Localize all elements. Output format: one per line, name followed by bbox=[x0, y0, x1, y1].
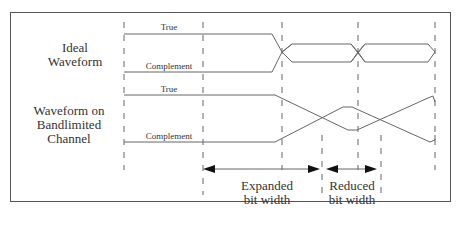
ideal-true-label: True bbox=[144, 22, 194, 32]
reduced-line2: bit width bbox=[322, 193, 382, 207]
expanded-bit-width-label: Expanded bit width bbox=[232, 179, 302, 207]
reduced-bit-width-label: Reduced bit width bbox=[322, 179, 382, 207]
ideal-label-line1: Ideal bbox=[40, 41, 110, 55]
bandlimited-complement-label: Complement bbox=[136, 131, 202, 141]
ideal-complement-label: Complement bbox=[136, 61, 202, 71]
row-label-bandlimited: Waveform on Bandlimited Channel bbox=[14, 104, 124, 146]
bandlimited-label-line1: Waveform on bbox=[14, 104, 124, 118]
bandlimited-label-line2: Bandlimited Channel bbox=[14, 118, 124, 146]
expanded-line2: bit width bbox=[232, 193, 302, 207]
expanded-line1: Expanded bbox=[232, 179, 302, 193]
ideal-label-line2: Waveform bbox=[40, 55, 110, 69]
reduced-line1: Reduced bbox=[322, 179, 382, 193]
row-label-ideal: Ideal Waveform bbox=[40, 41, 110, 69]
bandlimited-true-label: True bbox=[144, 84, 194, 94]
